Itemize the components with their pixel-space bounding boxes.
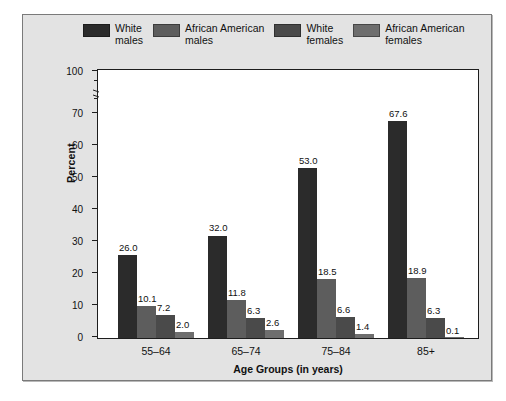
plot-area: 100 70 60 50 40 30 20 10: [97, 69, 479, 339]
bar-value-label: 1.4: [356, 321, 369, 332]
bar-value-label: 7.2: [157, 302, 170, 313]
legend-swatch-white-males: [83, 24, 110, 37]
legend-label-white-females: White females: [306, 23, 343, 46]
bar-value-label: 6.6: [337, 304, 350, 315]
y-tick-label-100: 100: [66, 66, 83, 77]
y-tick-10: 10: [92, 304, 98, 305]
legend-swatch-african-american-females: [353, 24, 380, 37]
bar-value-label: 6.3: [427, 305, 440, 316]
y-tick-20: 20: [92, 272, 98, 273]
y-tick-label-30: 30: [72, 236, 83, 247]
bar-group-bars: 32.0 11.8 6.3 2.6: [208, 70, 284, 338]
legend-swatch-white-females: [274, 24, 301, 37]
y-tick-40: 40: [92, 208, 98, 209]
x-tick-label-85-plus: 85+: [417, 345, 435, 357]
y-tick-label-20: 20: [72, 268, 83, 279]
x-tick-label-55-64: 55–64: [141, 345, 170, 357]
bar-value-label: 10.1: [138, 293, 157, 304]
bar-rect: [118, 255, 137, 338]
bar-rect: [246, 318, 265, 338]
bar-value-label: 67.6: [389, 108, 408, 119]
bar-group-bars: 26.0 10.1 7.2 2.0: [118, 70, 194, 338]
y-axis-break-glyph: [93, 89, 101, 98]
x-axis-title: Age Groups (in years): [97, 363, 479, 375]
y-tick-30: 30: [92, 240, 98, 241]
y-tick-minor-lower: [94, 98, 98, 99]
bar-rect: [137, 306, 156, 338]
legend-item-african-american-males: African American males: [153, 23, 264, 46]
bar-rect: [175, 332, 194, 338]
bar-rect: [298, 168, 317, 338]
bar-group-55-64: 26.0 10.1 7.2 2.0 55–64: [118, 70, 194, 338]
bar-value-label: 18.5: [318, 266, 337, 277]
legend-item-white-males: White males: [83, 23, 143, 46]
legend-label-african-american-males: African American males: [185, 23, 264, 46]
bar-rect: [336, 317, 355, 338]
y-tick-label-40: 40: [72, 204, 83, 215]
chart-legend: White males African American males White…: [83, 23, 483, 57]
bar-rect: [227, 300, 246, 338]
bar-value-label: 11.8: [228, 287, 246, 298]
y-tick-60: 60: [92, 144, 98, 145]
legend-item-white-females: White females: [274, 23, 343, 46]
y-tick-label-60: 60: [72, 140, 83, 151]
legend-item-african-american-females: African American females: [353, 23, 464, 46]
bar-rect: [156, 315, 175, 338]
bar-rect: [445, 337, 464, 338]
bar-rect: [355, 334, 374, 338]
bar-value-label: 0.1: [446, 325, 459, 336]
y-axis-break-icon: [93, 84, 101, 93]
legend-label-african-american-females: African American females: [385, 23, 464, 46]
bar-value-label: 26.0: [119, 242, 138, 253]
bar-group-bars: 67.6 18.9 6.3 0.1: [388, 70, 464, 338]
bar-group-75-84: 53.0 18.5 6.6 1.4 75–84: [298, 70, 374, 338]
x-tick-label-75-84: 75–84: [321, 345, 350, 357]
y-tick-minor-upper: [94, 80, 98, 81]
bar-rect: [388, 121, 407, 338]
bar-group-65-74: 32.0 11.8 6.3 2.6 65–74: [208, 70, 284, 338]
bar-value-label: 2.6: [266, 317, 279, 328]
bar-group-bars: 53.0 18.5 6.6 1.4: [298, 70, 374, 338]
legend-label-white-males: White males: [115, 23, 143, 46]
bar-value-label: 18.9: [408, 265, 427, 276]
bar-rect: [265, 330, 284, 338]
bar-rect: [426, 318, 445, 338]
legend-swatch-african-american-males: [153, 24, 180, 37]
bar-group-85-plus: 67.6 18.9 6.3 0.1 85+: [388, 70, 464, 338]
y-tick-label-70: 70: [72, 108, 83, 119]
bar-rect: [407, 278, 426, 338]
y-tick-label-10: 10: [72, 300, 83, 311]
bar-rect: [208, 236, 227, 338]
bar-value-label: 32.0: [209, 222, 228, 233]
bar-value-label: 6.3: [247, 305, 260, 316]
y-tick-70: 70: [92, 112, 98, 113]
y-tick-100: 100: [92, 70, 98, 71]
y-tick-label-50: 50: [72, 172, 83, 183]
bar-rect: [317, 279, 336, 338]
chart-panel: White males African American males White…: [22, 14, 492, 381]
y-tick-50: 50: [92, 176, 98, 177]
y-tick-0: 0: [92, 336, 98, 337]
bar-value-label: 2.0: [176, 319, 189, 330]
bar-value-label: 53.0: [299, 155, 318, 166]
x-tick-label-65-74: 65–74: [231, 345, 260, 357]
y-tick-label-0: 0: [77, 332, 83, 343]
